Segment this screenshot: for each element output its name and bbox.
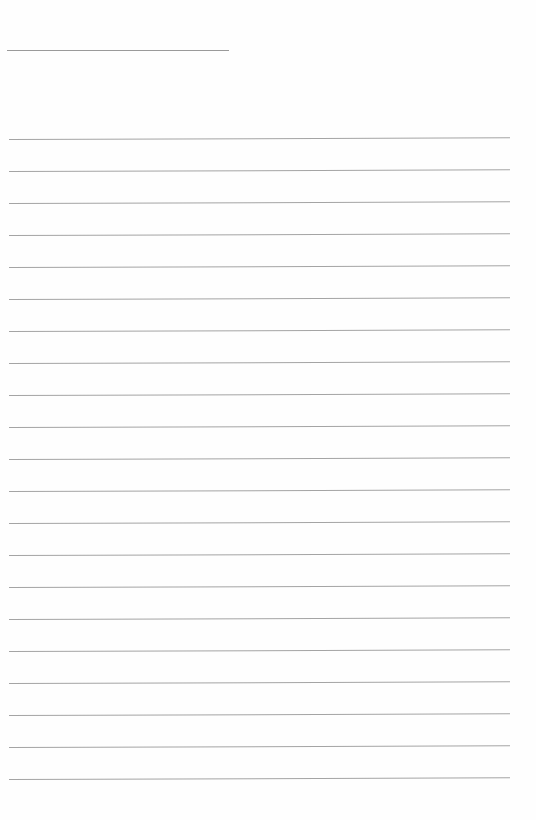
ruled-line (9, 233, 510, 236)
ruled-line (9, 329, 510, 332)
ruled-line (9, 553, 510, 556)
ruled-line (9, 297, 510, 300)
ruled-line (9, 681, 510, 684)
ruled-line (9, 713, 510, 716)
ruled-line (9, 745, 510, 748)
ruled-line (9, 457, 510, 460)
ruled-line (9, 489, 510, 492)
ruled-line (9, 777, 510, 780)
ruled-line (9, 169, 510, 172)
ruled-line (9, 521, 510, 524)
ruled-line (9, 265, 510, 268)
ruled-line (9, 617, 510, 620)
ruled-line (9, 393, 510, 396)
ruled-line (9, 425, 510, 428)
ruled-line (9, 201, 510, 204)
ruled-line (9, 137, 510, 140)
ruled-line (9, 649, 510, 652)
title-underline (7, 50, 229, 51)
ruled-line (9, 361, 510, 364)
title-text (9, 30, 227, 48)
ruled-line (9, 585, 510, 588)
lined-page (0, 0, 536, 820)
